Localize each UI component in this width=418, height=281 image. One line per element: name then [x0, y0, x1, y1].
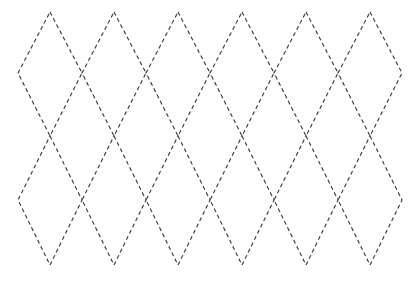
diamond-lattice-diagram: Dashed diamond lattice — [0, 0, 418, 281]
diamond-outline — [210, 12, 274, 136]
diamond — [338, 136, 402, 265]
diamond — [18, 12, 82, 136]
diamond-outline — [146, 136, 210, 265]
diamond-outline — [210, 136, 274, 265]
lattice-svg — [0, 0, 418, 281]
diamond-outline — [18, 12, 82, 136]
diamond — [18, 136, 82, 265]
diamond-outline — [338, 136, 402, 265]
diamond — [210, 12, 274, 136]
diamond — [274, 136, 338, 265]
diamond — [274, 12, 338, 136]
diamond-outline — [82, 136, 146, 265]
diamond-outline — [274, 136, 338, 265]
diamond — [146, 12, 210, 136]
diamond — [210, 136, 274, 265]
diamond-outline — [274, 12, 338, 136]
diamond-outline — [18, 136, 82, 265]
diamond-outline — [338, 12, 402, 136]
diamond — [82, 12, 146, 136]
diamond — [146, 136, 210, 265]
diamond-outline — [82, 12, 146, 136]
diamond — [82, 136, 146, 265]
diamond — [338, 12, 402, 136]
diamond-outline — [146, 12, 210, 136]
